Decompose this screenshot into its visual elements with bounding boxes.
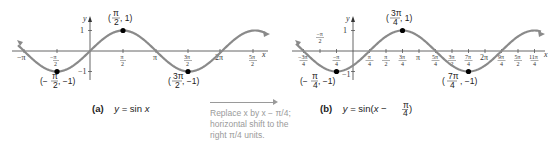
svg-text:−π: −π [316, 31, 322, 37]
note-line-3: right π/4 units. [210, 130, 320, 141]
svg-text:, 1): , 1) [400, 13, 412, 23]
point-max-a [120, 28, 125, 33]
x-tick-neg-pi-a: −π [17, 53, 26, 62]
caption-b-fraction: π 4 ) [402, 100, 412, 118]
point-label-3pi-half-neg1: ( 3π 2 , −1) [168, 71, 199, 90]
svg-text:, −1): , −1) [58, 76, 75, 86]
point-max-b [400, 28, 405, 33]
svg-text:(: ( [108, 13, 111, 23]
x-tick-pi-half-a: π2 [120, 54, 126, 67]
svg-text:4: 4 [302, 61, 305, 67]
point-min-left-b [334, 69, 339, 74]
svg-text:(: ( [442, 76, 445, 86]
x-tick-pi-a: π [153, 53, 157, 62]
svg-text:2: 2 [251, 61, 254, 67]
svg-text:, −1): , −1) [318, 76, 335, 86]
y-tick-1-a: 1 [80, 26, 84, 35]
svg-text:π: π [121, 54, 124, 60]
y-axis-arrow-icon [88, 16, 92, 22]
svg-text:4: 4 [500, 61, 503, 67]
svg-text:11π: 11π [529, 54, 538, 60]
x-tick-neg-pi-half-a: −π2 [50, 54, 59, 67]
svg-text:π: π [384, 54, 387, 60]
transform-note: Replace x by x − π/4; horizontal shift t… [210, 108, 320, 141]
svg-text:3π: 3π [448, 54, 454, 60]
caption-b: (b) y = sin(x − [320, 103, 387, 114]
svg-text:4: 4 [401, 61, 404, 67]
y-tick-1-b: 1 [343, 26, 347, 35]
graph-b: y x 1 −1 −3π4−π2−π4π4π23π4π5π43π27π42π9π… [292, 8, 548, 118]
curve-arrow-left-icon [17, 40, 23, 46]
point-label-neg-pi-half-neg1: (− π 2 , −1) [40, 71, 75, 90]
note-line-1: Replace x by x − π/4; [210, 108, 320, 119]
svg-text:(: ( [168, 76, 171, 86]
point-min-right-b [466, 69, 471, 74]
svg-text:−π: −π [50, 54, 56, 60]
caption-a: (a) y = sin x [92, 103, 151, 114]
svg-text:4: 4 [467, 61, 470, 67]
svg-text:, −1): , −1) [182, 76, 199, 86]
svg-text:(−: (− [300, 76, 308, 86]
svg-text:4: 4 [393, 17, 398, 27]
x-tick-3pi-half-a: 3π2 [184, 54, 192, 67]
svg-text:4: 4 [403, 108, 408, 118]
svg-text:): ) [409, 103, 412, 114]
svg-text:2π: 2π [480, 53, 488, 62]
point-min-right-a [185, 69, 190, 74]
svg-text:5π: 5π [432, 54, 438, 60]
svg-text:, −1): , −1) [460, 76, 477, 86]
svg-text:π: π [368, 54, 371, 60]
right-arrow-icon [210, 102, 274, 103]
svg-text:2: 2 [121, 61, 124, 67]
svg-text:2: 2 [318, 38, 321, 44]
point-label-3pi-4-1: ( 3π 4 , 1) [386, 8, 412, 27]
y-axis-label-b: y [345, 14, 350, 23]
svg-text:7π: 7π [465, 54, 471, 60]
graph-a: y x 1 −1 −π −π2 π2 π 3π2 2π 5π2 [12, 8, 270, 114]
svg-text:4: 4 [533, 61, 536, 67]
svg-text:−π: −π [333, 54, 339, 60]
svg-text:2: 2 [114, 17, 119, 27]
svg-text:π: π [416, 53, 420, 62]
svg-text:2: 2 [175, 80, 180, 90]
curve-arrow-icon [263, 31, 270, 37]
svg-text:4: 4 [335, 61, 338, 67]
svg-text:2: 2 [186, 61, 189, 67]
svg-text:5π: 5π [249, 54, 255, 60]
svg-text:2: 2 [516, 61, 519, 67]
svg-text:(: ( [386, 13, 389, 23]
point-label-pi-half-1: ( π 2 , 1) [108, 8, 132, 27]
svg-text:2: 2 [54, 61, 57, 67]
x-axis-label-a: x [261, 50, 266, 59]
svg-text:(−: (− [40, 76, 48, 86]
svg-text:, 1): , 1) [120, 13, 132, 23]
x-axis-label-b: x [543, 50, 548, 59]
svg-text:4: 4 [434, 61, 437, 67]
point-label-7pi-4-neg1: ( 7π 4 , −1) [442, 71, 477, 90]
svg-text:4: 4 [450, 80, 455, 90]
y-tick-neg1-a: −1 [78, 67, 87, 76]
x-tick-5pi-half-a: 5π2 [249, 54, 257, 67]
y-axis-label-a: y [82, 14, 87, 23]
curve-arrow-icon [538, 31, 545, 37]
note-line-2: horizontal shift to the [210, 119, 320, 130]
svg-text:3π: 3π [184, 54, 190, 60]
point-label-neg-pi-4-neg1: (− π 4 , −1) [300, 71, 335, 90]
svg-text:2: 2 [384, 61, 387, 67]
y-axis-arrow-icon [351, 16, 355, 22]
svg-text:4: 4 [368, 61, 371, 67]
svg-text:3π: 3π [399, 54, 405, 60]
svg-text:5π: 5π [514, 54, 520, 60]
